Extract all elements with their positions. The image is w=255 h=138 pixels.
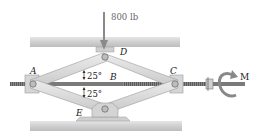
label-A: A — [29, 66, 37, 76]
pin-E — [102, 106, 108, 112]
label-E: E — [75, 108, 83, 118]
base-pad — [76, 117, 130, 121]
label-B: B — [109, 72, 117, 82]
label-C: C — [170, 66, 177, 76]
bracket-D — [96, 47, 114, 52]
pin-D — [102, 54, 108, 60]
label-D: D — [119, 47, 127, 57]
screw-coupling — [206, 79, 213, 89]
angle-mark-upper-icon — [83, 70, 86, 80]
moment-label: M — [240, 72, 249, 82]
scissor-jack-diagram: 800 lb 25° 25° A B C D E M — [0, 0, 255, 138]
bottom-plate — [30, 121, 182, 131]
pin-C — [172, 81, 178, 87]
load-label: 800 lb — [111, 12, 139, 22]
pin-A — [30, 81, 36, 87]
angle-lower-label: 25° — [87, 89, 102, 99]
angle-upper-label: 25° — [87, 71, 102, 81]
diagram-canvas: 800 lb 25° 25° A B C D E M — [0, 0, 255, 138]
screw-thread-right — [182, 82, 206, 86]
